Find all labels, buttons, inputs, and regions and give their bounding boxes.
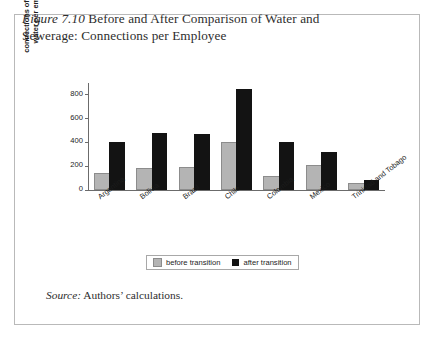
- bar-group: [258, 83, 300, 190]
- figure-caption: Figure 7.10 Before and After Comparison …: [22, 10, 352, 45]
- legend-entry-after: after transition: [232, 258, 291, 267]
- y-axis-tick-label: 800: [70, 89, 83, 98]
- y-axis-tick-label: 400: [70, 136, 83, 145]
- source-label: Source:: [46, 289, 81, 301]
- legend-label-before: before transition: [166, 258, 220, 267]
- bar-group: [173, 83, 215, 190]
- bar-group: [215, 83, 257, 190]
- bar-group: [88, 83, 130, 190]
- legend-swatch-before-icon: [153, 258, 162, 267]
- legend-entry-before: before transition: [153, 258, 220, 267]
- source-note: Source: Authors’ calculations.: [46, 289, 183, 301]
- bar-group: [130, 83, 172, 190]
- bar-group: [300, 83, 342, 190]
- bar-after: [236, 89, 252, 190]
- legend-swatch-after-icon: [232, 259, 239, 266]
- chart-legend: before transition after transition: [146, 255, 299, 270]
- plot-area: 0200400600800 ArgentinaBoliviaBrazilChil…: [88, 83, 385, 190]
- y-axis-tick-label: 200: [70, 160, 83, 169]
- bar-chart: connections of drinkable water per emplo…: [26, 62, 386, 252]
- y-axis-tick-label: 600: [70, 113, 83, 122]
- y-axis-tick-label: 0: [79, 184, 83, 193]
- legend-label-after: after transition: [243, 258, 291, 267]
- y-axis-label: connections of drinkable water per emplo…: [22, 0, 42, 68]
- figure-page: Figure 7.10 Before and After Comparison …: [0, 0, 434, 338]
- y-axis-label-line2: water per employee: [31, 0, 40, 68]
- source-text: Authors’ calculations.: [81, 289, 183, 301]
- y-axis-label-line1: connections of drinkable: [22, 0, 31, 68]
- bar-after: [194, 134, 210, 190]
